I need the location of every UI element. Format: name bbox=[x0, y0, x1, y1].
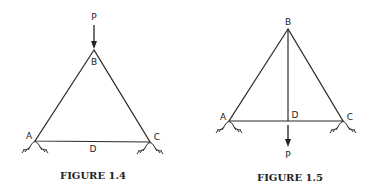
node-label-a: A bbox=[26, 131, 33, 141]
figure-caption: FIGURE 1.5 bbox=[257, 172, 323, 183]
figure-1-5: B A C D P FIGURE 1.5 bbox=[216, 17, 356, 183]
arrow-down-icon bbox=[285, 139, 291, 147]
node-label-d: D bbox=[292, 110, 299, 120]
arrow-down-icon bbox=[91, 41, 97, 49]
load-label: P bbox=[285, 150, 291, 160]
node-label-a: A bbox=[220, 112, 227, 122]
figure-1-4: P B A C D FIGURE 1.4 bbox=[22, 12, 163, 181]
truss-triangle bbox=[229, 29, 343, 121]
figure-caption: FIGURE 1.4 bbox=[60, 170, 126, 181]
pin-support-icon bbox=[216, 122, 242, 134]
node-label-b: B bbox=[91, 57, 97, 67]
load-label: P bbox=[91, 12, 97, 22]
node-label-c: C bbox=[347, 112, 353, 122]
pin-support-icon bbox=[330, 122, 356, 134]
pin-support-icon bbox=[22, 142, 48, 154]
node-label-c: C bbox=[154, 132, 160, 142]
node-label-b: B bbox=[285, 17, 291, 27]
node-label-d: D bbox=[90, 144, 97, 154]
pin-support-icon bbox=[137, 143, 163, 155]
figures-canvas: P B A C D FIGURE 1.4 B A C D P FIGURE 1.… bbox=[0, 0, 377, 186]
